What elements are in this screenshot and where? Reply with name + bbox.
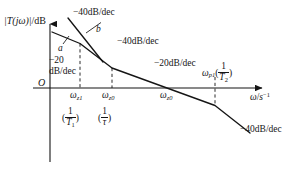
x-tick-label-wz1: ωz1 — [70, 91, 82, 102]
slope-label-minus20-line1: −20 — [49, 55, 64, 65]
fraction-denominator: T2 — [218, 73, 229, 84]
denominator-subscript: 1 — [71, 120, 74, 127]
denominator-subscript: 2 — [225, 75, 228, 82]
slope-label-top: −40dB/dec — [73, 8, 115, 18]
pole-label-wp1: ωp1(1T2) — [202, 62, 232, 83]
fraction-1-over-T2: 1T2 — [218, 62, 229, 83]
y-axis-label: |T(jω)|/dB — [4, 16, 46, 27]
curve-label-a: a — [58, 44, 63, 54]
omega-symbol: ω — [70, 90, 77, 100]
slope-label-bottom-40: −40dB/dec — [240, 125, 282, 135]
fraction-denominator: T1 — [65, 118, 76, 129]
slope-label-mid-40: −40dB/dec — [117, 37, 159, 47]
x-tick-label-wz0-crossing: ωz0 — [160, 91, 172, 102]
origin-label: O — [38, 78, 45, 89]
omega-subscript: z0 — [167, 94, 173, 101]
x-axis-label: ω/s−1 — [250, 92, 270, 103]
omega-symbol: ω — [160, 90, 167, 100]
bode-plot-figure: |T(jω)|/dB −40dB/dec b a −20 dB/dec −40d… — [0, 0, 297, 169]
omega-subscript: z1 — [77, 94, 83, 101]
slope-label-minus20-line2: dB/dec — [49, 66, 76, 76]
x-tick-label-wz0: ωz0 — [102, 91, 114, 102]
fraction-1-over-tau: 1τ — [101, 107, 108, 128]
paren-close: ) — [229, 68, 232, 78]
fraction-1-over-T1: 1T1 — [65, 107, 76, 128]
omega-subscript: z0 — [109, 94, 115, 101]
slope-label-minus20-left: −20 dB/dec — [49, 55, 76, 77]
paren-close: ) — [108, 113, 111, 123]
denominator-symbol: τ — [103, 117, 106, 127]
curve-label-b: b — [96, 25, 101, 35]
x-tick-note-wz0: (1τ) — [98, 107, 111, 128]
x-tick-note-wz1: (1T1) — [62, 107, 79, 128]
slope-label-mid-20: −20dB/dec — [154, 59, 196, 69]
fraction-denominator: τ — [101, 118, 108, 129]
omega-symbol: ω — [202, 68, 209, 78]
omega-symbol: ω — [102, 90, 109, 100]
paren-close: ) — [76, 113, 79, 123]
